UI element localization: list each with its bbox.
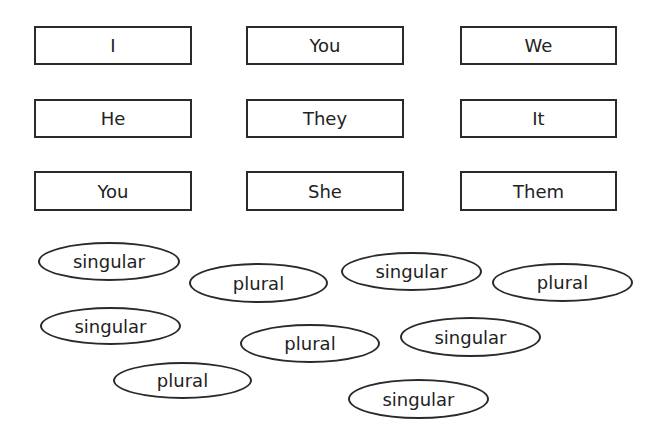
pronoun-card-9[interactable]: Them <box>460 171 617 211</box>
label-oval-9[interactable]: singular <box>348 379 489 419</box>
pronoun-card-8[interactable]: She <box>246 171 404 211</box>
pronoun-card-6[interactable]: It <box>460 99 617 138</box>
label-oval-6[interactable]: plural <box>240 324 380 363</box>
pronoun-card-4[interactable]: He <box>34 99 192 138</box>
pronoun-card-5[interactable]: They <box>246 99 404 138</box>
pronoun-card-3[interactable]: We <box>460 26 617 65</box>
label-oval-7[interactable]: singular <box>400 317 541 357</box>
pronoun-card-7[interactable]: You <box>34 171 192 211</box>
label-oval-1[interactable]: singular <box>38 242 180 281</box>
label-oval-2[interactable]: plural <box>189 263 328 303</box>
pronoun-card-2[interactable]: You <box>246 26 404 65</box>
pronoun-card-1[interactable]: I <box>34 26 192 65</box>
label-oval-5[interactable]: singular <box>40 307 181 345</box>
label-oval-4[interactable]: plural <box>492 263 633 302</box>
label-oval-8[interactable]: plural <box>113 362 252 399</box>
label-oval-3[interactable]: singular <box>341 252 482 291</box>
